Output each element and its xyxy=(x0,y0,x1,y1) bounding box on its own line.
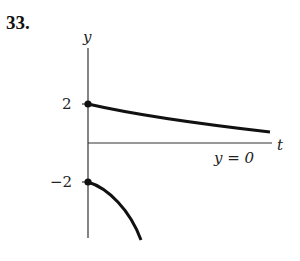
equilibrium-label: y = 0 xyxy=(213,149,255,167)
initial-point-neg2 xyxy=(84,178,91,185)
lower-solution-curve xyxy=(88,182,141,240)
y-axis-label: y xyxy=(82,28,92,46)
tick-label-2: 2 xyxy=(62,95,72,113)
initial-point-2 xyxy=(84,100,91,107)
t-axis-label: t xyxy=(277,136,284,154)
tick-label-neg2: −2 xyxy=(50,173,72,191)
slope-graph: y t 2 −2 y = 0 xyxy=(0,0,300,261)
upper-solution-curve xyxy=(88,104,270,132)
